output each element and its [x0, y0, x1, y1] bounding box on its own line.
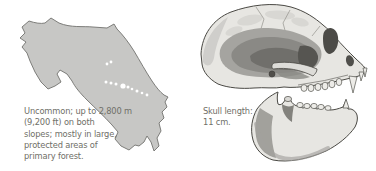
upper-incisor — [359, 72, 364, 81]
upper-canine — [349, 76, 357, 93]
range-dot — [120, 83, 125, 88]
book-page-excerpt: Uncommon; up to 2,800 m (9,200 ft) on bo… — [0, 0, 376, 171]
range-caption-line: Uncommon; up to 2,800 m — [24, 106, 132, 117]
range-caption-line: slopes; mostly in large, — [24, 129, 132, 140]
ear-opening-icon — [269, 71, 275, 77]
range-dot — [131, 88, 134, 91]
range-dot — [136, 90, 139, 93]
range-dot — [110, 61, 113, 64]
cranium — [201, 5, 367, 93]
range-caption: Uncommon; up to 2,800 m (9,200 ft) on bo… — [24, 106, 132, 162]
range-dot — [110, 82, 113, 85]
range-caption-line: (9,200 ft) on both — [24, 117, 132, 128]
skull-caption-line: Skull length: — [203, 106, 253, 117]
skull-caption-line: 11 cm. — [203, 117, 253, 128]
condyle — [284, 96, 291, 101]
skull-figure — [198, 4, 376, 166]
range-dot — [106, 63, 109, 66]
range-dot — [105, 81, 108, 84]
skull-illustration — [198, 4, 376, 166]
range-dot — [141, 92, 144, 95]
mandible — [252, 92, 358, 161]
range-caption-line: protected areas of — [24, 140, 132, 151]
lower-canine — [343, 99, 349, 108]
range-dot — [115, 83, 118, 86]
range-dot — [127, 86, 130, 89]
range-dot — [146, 94, 149, 97]
range-caption-line: primary forest. — [24, 151, 132, 162]
skull-caption: Skull length: 11 cm. — [203, 106, 253, 129]
